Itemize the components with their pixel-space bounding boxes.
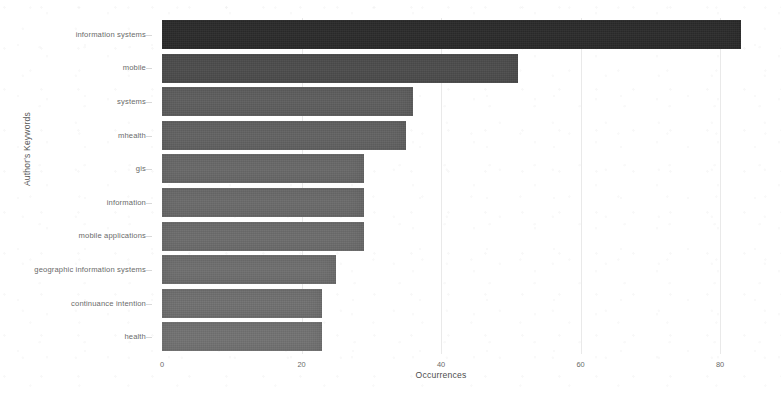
bar <box>162 289 322 318</box>
y-tick-connector <box>146 270 152 271</box>
bar-row <box>162 220 720 253</box>
y-axis-tick-labels: information systemsmobilesystemsmhealthg… <box>0 18 152 354</box>
bar <box>162 222 364 251</box>
x-axis-tick-label: 80 <box>716 360 724 369</box>
y-axis-tick-label: systems <box>117 97 146 106</box>
bar <box>162 87 413 116</box>
bar-row <box>162 186 720 219</box>
bar <box>162 322 322 351</box>
y-tick-connector <box>146 337 152 338</box>
y-axis-tick-label: mobile applications <box>79 231 146 240</box>
y-axis-tick-label: continuance intention <box>71 299 146 308</box>
y-axis-tick-label: health <box>124 332 146 341</box>
gridline <box>720 18 721 354</box>
bar <box>162 20 741 49</box>
bar <box>162 121 406 150</box>
y-tick-connector <box>146 304 152 305</box>
y-axis-tick-label: geographic information systems <box>34 265 146 274</box>
y-axis-tick-label: mobile <box>123 63 146 72</box>
plot-area <box>162 18 720 354</box>
y-axis-tick-label: information systems <box>76 30 146 39</box>
bar <box>162 188 364 217</box>
bar-row <box>162 52 720 85</box>
bar-row <box>162 320 720 353</box>
y-tick-connector <box>146 68 152 69</box>
y-tick-connector <box>146 102 152 103</box>
y-tick-connector <box>146 35 152 36</box>
bar <box>162 54 518 83</box>
y-tick-connector <box>146 169 152 170</box>
bar-row <box>162 119 720 152</box>
y-tick-connector <box>146 203 152 204</box>
x-axis-tick-label: 40 <box>437 360 445 369</box>
y-axis-tick-label: mhealth <box>118 131 146 140</box>
y-tick-connector <box>146 236 152 237</box>
x-axis-tick-label: 20 <box>297 360 305 369</box>
x-axis-tick-label: 0 <box>160 360 164 369</box>
y-axis-tick-label: gis <box>136 164 146 173</box>
bar-row <box>162 85 720 118</box>
x-axis-title: Occurrences <box>162 370 720 380</box>
bar-row <box>162 253 720 286</box>
bar <box>162 154 364 183</box>
bar-row <box>162 287 720 320</box>
x-axis-tick-label: 60 <box>576 360 584 369</box>
bar-row <box>162 152 720 185</box>
y-tick-connector <box>146 136 152 137</box>
bar-row <box>162 18 720 51</box>
bar <box>162 255 336 284</box>
y-axis-tick-label: information <box>107 198 146 207</box>
horizontal-bar-chart: Author's Keywords information systemsmob… <box>0 0 781 396</box>
